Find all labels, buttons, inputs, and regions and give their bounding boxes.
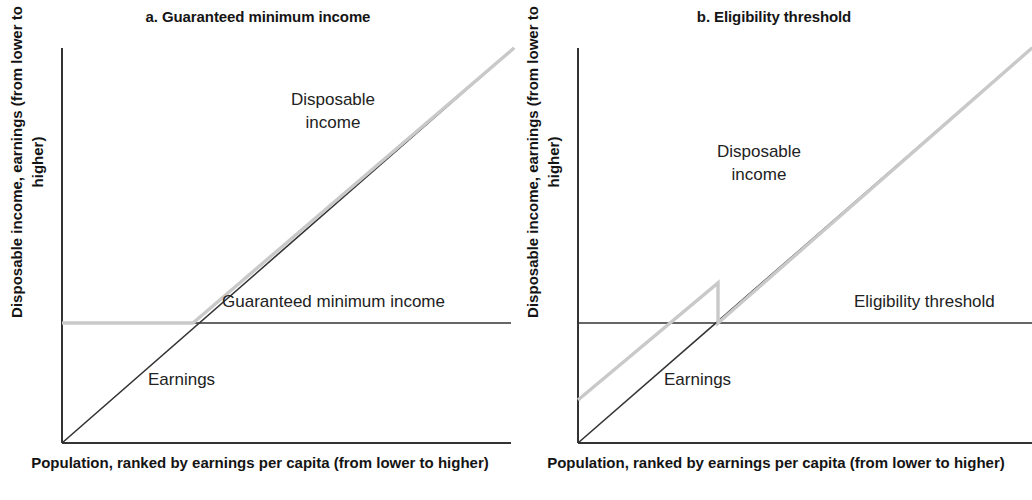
panel-a-disposable-income-label: Disposable income [268,88,398,134]
panel-b-threshold-label: Eligibility threshold [854,290,995,313]
panel-b-disposable-income-line [578,48,1032,400]
panel-a-plot [0,0,516,500]
panel-b-x-axis-title: Population, ranked by earnings per capit… [536,452,1016,473]
figure-two-panel-chart: a. Guaranteed minimum income Disposable … [0,0,1032,500]
panel-eligibility-threshold: b. Eligibility threshold Disposable inco… [516,0,1032,500]
panel-b-plot [516,0,1032,500]
panel-b-earnings-label: Earnings [664,368,731,391]
panel-guaranteed-minimum-income: a. Guaranteed minimum income Disposable … [0,0,516,500]
panel-a-x-axis-title: Population, ranked by earnings per capit… [20,452,500,473]
panel-a-earnings-label: Earnings [148,368,215,391]
panel-b-disposable-income-label: Disposable income [694,140,824,186]
panel-a-threshold-label: Guaranteed minimum income [222,290,445,313]
